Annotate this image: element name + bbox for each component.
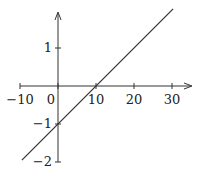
x-tick-label: 30 [164, 92, 181, 107]
y-tick-label: 1 [44, 40, 52, 55]
line-chart: −1001020301−1−2 [0, 0, 203, 173]
y-tick-label: −2 [33, 154, 52, 169]
x-tick-label: 20 [126, 92, 143, 107]
data-line [22, 9, 173, 160]
x-tick-label: 10 [88, 92, 105, 107]
axes [20, 12, 192, 162]
x-tick-label: −10 [6, 92, 33, 107]
x-tick-label: 0 [47, 92, 55, 107]
y-tick-label: −1 [33, 116, 52, 131]
data-series [22, 9, 173, 160]
chart-svg: −1001020301−1−2 [0, 0, 203, 173]
